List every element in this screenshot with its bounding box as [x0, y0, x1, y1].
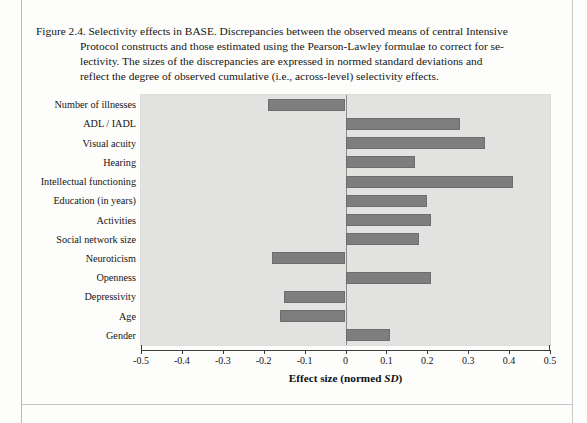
- category-label-depressivity: Depressivity: [85, 291, 137, 302]
- value-axis-tick-label: 0: [326, 355, 366, 366]
- category-label-number-of-illnesses: Number of illnesses: [55, 99, 137, 110]
- value-axis-tick: [427, 350, 428, 354]
- value-axis-tick: [141, 350, 142, 354]
- value-axis-tick-label: 0.2: [407, 355, 447, 366]
- bar-social-network-size: [346, 233, 420, 245]
- bar-intellectual-functioning: [346, 176, 514, 188]
- bar-number-of-illnesses: [268, 99, 346, 111]
- value-axis-title: Effect size (normed SD): [141, 372, 550, 384]
- bar-row: [141, 252, 550, 264]
- bar-row: [141, 214, 550, 226]
- value-axis-tick: [468, 350, 469, 354]
- bar-age: [280, 310, 345, 322]
- bar-row: [141, 156, 550, 168]
- category-label-openness: Openness: [96, 272, 136, 283]
- category-axis-labels: Number of illnessesADL / IADLVisual acui…: [30, 95, 136, 345]
- bar-row: [141, 329, 550, 341]
- bar-row: [141, 233, 550, 245]
- bar-row: [141, 272, 550, 284]
- caption-line-2: Protocol constructs and those estimated …: [36, 39, 552, 54]
- category-label-social-network-size: Social network size: [56, 234, 136, 245]
- category-label-intellectual-functioning: Intellectual functioning: [41, 176, 136, 187]
- value-axis-tick: [264, 350, 265, 354]
- category-label-adl-iadl: ADL / IADL: [83, 118, 136, 129]
- bar-visual-acuity: [346, 137, 485, 149]
- caption-line-4: reflect the degree of observed cumulativ…: [36, 69, 552, 84]
- value-axis-tick: [550, 350, 551, 354]
- value-axis-tick-label: -0.2: [244, 355, 284, 366]
- category-label-education-in-years: Education (in years): [53, 195, 136, 206]
- value-axis-title-main: Effect size (normed: [289, 372, 384, 384]
- page-edge-bottom: [21, 404, 573, 405]
- category-label-age: Age: [119, 311, 136, 322]
- value-axis-tick-label: -0.1: [285, 355, 325, 366]
- bar-row: [141, 99, 550, 111]
- figure-caption: Figure 2.4. Selectivity effects in BASE.…: [36, 24, 552, 84]
- caption-line-1: Figure 2.4. Selectivity effects in BASE.…: [36, 24, 552, 39]
- page-edge-left: [21, 0, 22, 423]
- category-label-visual-acuity: Visual acuity: [83, 138, 136, 149]
- category-label-hearing: Hearing: [103, 157, 136, 168]
- bar-hearing: [346, 156, 416, 168]
- bar-row: [141, 137, 550, 149]
- bar-activities: [346, 214, 432, 226]
- bar-gender: [346, 329, 391, 341]
- bar-row: [141, 291, 550, 303]
- value-axis-tick-label: -0.5: [121, 355, 161, 366]
- category-label-gender: Gender: [106, 330, 136, 341]
- value-axis-title-close: ): [398, 372, 402, 384]
- bar-chart-plot-area: [141, 95, 550, 345]
- bar-row: [141, 310, 550, 322]
- value-axis-tick: [182, 350, 183, 354]
- value-axis-tick: [346, 350, 347, 354]
- category-label-neuroticism: Neuroticism: [86, 253, 136, 264]
- bar-neuroticism: [272, 252, 346, 264]
- value-axis-tick: [509, 350, 510, 354]
- value-axis-tick: [223, 350, 224, 354]
- value-axis-tick-label: 0.5: [530, 355, 570, 366]
- value-axis-tick-label: 0.4: [489, 355, 529, 366]
- value-axis-tick-label: 0.1: [366, 355, 406, 366]
- bar-row: [141, 118, 550, 130]
- category-label-activities: Activities: [96, 215, 136, 226]
- bar-depressivity: [284, 291, 345, 303]
- page-edge-right: [572, 0, 573, 423]
- value-axis-tick-label: 0.3: [448, 355, 488, 366]
- bar-education-in-years: [346, 195, 428, 207]
- bar-openness: [346, 272, 432, 284]
- caption-line-3: lectivity. The sizes of the discrepancie…: [36, 54, 552, 69]
- value-axis-title-italic: SD: [384, 372, 398, 384]
- bar-adl-iadl: [346, 118, 461, 130]
- value-axis-tick: [386, 350, 387, 354]
- value-axis-tick-label: -0.4: [162, 355, 202, 366]
- value-axis-tick: [305, 350, 306, 354]
- bar-row: [141, 176, 550, 188]
- figure-page: Figure 2.4. Selectivity effects in BASE.…: [0, 0, 587, 423]
- value-axis-tick-label: -0.3: [203, 355, 243, 366]
- bar-row: [141, 195, 550, 207]
